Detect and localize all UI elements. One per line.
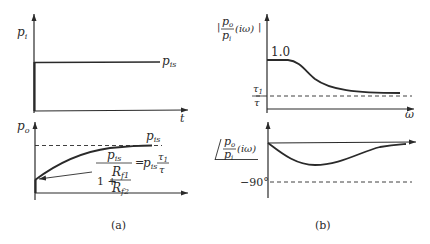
caption-b: (b) (315, 219, 331, 232)
magnitude-plot: 1.0 ω τ1 τ | po pi (iω) | (217, 14, 414, 121)
phase-y-label: po pi (iω) (215, 135, 258, 162)
ratio-numerator: Rf1 (111, 165, 129, 180)
abs-bar-right: | (258, 21, 261, 33)
panel-b: 1.0 ω τ1 τ | po pi (iω) | −90° (215, 14, 416, 232)
x-axis (34, 110, 188, 111)
ratio-num: po (224, 135, 235, 149)
panel-a: pi t pis po pis pis 1 + Rf1 Rf2 = pis (17, 14, 188, 232)
input-step-plot: pi t pis (17, 14, 188, 125)
abs-bar-left: | (217, 21, 220, 33)
initial-value-expression: pis 1 + Rf1 Rf2 = pis τ1 τ (39, 148, 169, 196)
phase-plot: −90° po pi (iω) (215, 122, 416, 198)
magnitude-curve (267, 60, 400, 93)
asymptote-label: pis (146, 129, 160, 144)
asymptote-label-den: τ (254, 97, 260, 108)
asymptote-label-num: τ1 (253, 83, 263, 96)
ratio-num: po (222, 15, 233, 29)
step-level-label: pis (162, 54, 176, 69)
ratio-arg: (iω) (237, 143, 256, 154)
high-value-label: 1.0 (271, 45, 290, 59)
x-axis-label: ω (405, 108, 414, 121)
x-axis-label: t (180, 112, 185, 125)
ratio-den: pi (222, 29, 231, 43)
magnitude-y-label: | po pi (iω) | (217, 15, 261, 43)
rhs-frac-den: τ (159, 164, 165, 175)
step-level (34, 62, 160, 63)
caption-a: (a) (111, 219, 126, 232)
diagram-canvas: pi t pis po pis pis 1 + Rf1 Rf2 = pis (0, 0, 430, 244)
fraction-numerator: pis (107, 148, 121, 163)
minus-90-label: −90° (240, 176, 269, 189)
phase-curve (268, 143, 406, 165)
x-axis (268, 142, 416, 143)
y-axis-label: po (17, 119, 30, 135)
pointer-arrow (39, 172, 92, 179)
ratio-denominator: Rf2 (111, 181, 129, 196)
angle-symbol-diag (215, 139, 221, 160)
y-axis-label: pi (17, 25, 28, 41)
rhs-frac-num: τ1 (158, 151, 168, 164)
rhs-term: pis (143, 156, 157, 171)
ratio-den: pi (224, 148, 233, 162)
ratio-arg: (iω) (235, 23, 254, 34)
output-response-plot: po pis pis 1 + Rf1 Rf2 = pis τ1 τ (17, 119, 188, 200)
